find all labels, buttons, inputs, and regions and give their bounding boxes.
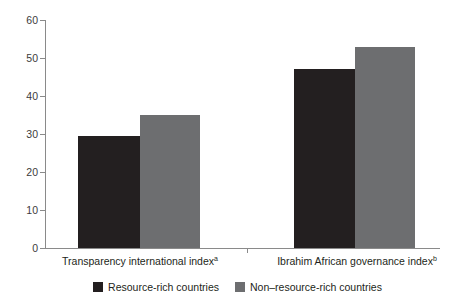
y-axis-tick bbox=[40, 20, 45, 21]
bar-non-resource-rich-group-2 bbox=[355, 47, 415, 248]
y-axis-tick-label: 50 bbox=[4, 53, 38, 64]
x-axis-line bbox=[45, 248, 440, 249]
y-axis-tick-label: 0 bbox=[4, 243, 38, 254]
bar-chart: 0102030405060 Transparency international… bbox=[0, 0, 475, 301]
category-footnote-marker: a bbox=[214, 255, 218, 262]
category-footnote-marker: b bbox=[433, 255, 437, 262]
plot-area bbox=[46, 20, 440, 248]
legend: Resource-rich countriesNon–resource-rich… bbox=[0, 281, 475, 293]
y-axis-tick bbox=[40, 134, 45, 135]
legend-label: Resource-rich countries bbox=[108, 281, 219, 293]
y-axis-tick bbox=[40, 172, 45, 173]
bar-resource-rich-group-2 bbox=[294, 69, 355, 248]
x-axis-category-label: Ibrahim African governance indexb bbox=[262, 256, 452, 268]
x-axis-category-label: Transparency international indexa bbox=[45, 256, 235, 268]
y-axis-tick-label: 60 bbox=[4, 15, 38, 26]
legend-label: Non–resource-rich countries bbox=[250, 281, 382, 293]
x-axis-tick bbox=[247, 248, 248, 253]
legend-item[interactable]: Non–resource-rich countries bbox=[235, 281, 382, 293]
legend-item[interactable]: Resource-rich countries bbox=[93, 281, 219, 293]
y-axis-tick-label: 10 bbox=[4, 205, 38, 216]
y-axis-tick-label: 20 bbox=[4, 167, 38, 178]
y-axis-tick-label: 30 bbox=[4, 129, 38, 140]
legend-swatch-icon bbox=[93, 282, 103, 292]
y-axis-tick-label: 40 bbox=[4, 91, 38, 102]
y-axis-tick bbox=[40, 96, 45, 97]
legend-swatch-icon bbox=[235, 282, 245, 292]
y-axis-tick bbox=[40, 58, 45, 59]
bar-resource-rich-group-1 bbox=[78, 136, 140, 248]
y-axis-tick bbox=[40, 210, 45, 211]
bar-non-resource-rich-group-1 bbox=[140, 115, 200, 248]
